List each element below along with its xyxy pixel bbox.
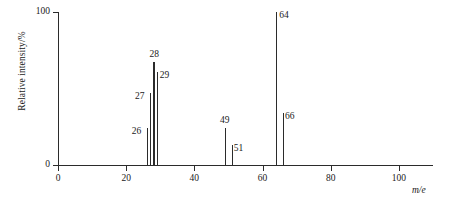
x-tick-label-100: 100: [392, 174, 406, 184]
peak-27: [150, 93, 151, 165]
x-tick-label-40: 40: [190, 174, 200, 184]
x-tick-20: [126, 166, 127, 171]
peak-label-51: 51: [234, 144, 244, 154]
peak-28: [153, 62, 154, 165]
x-tick-100: [399, 166, 400, 171]
x-tick-label-80: 80: [326, 174, 336, 184]
peak-label-29: 29: [160, 71, 170, 81]
peak-label-28: 28: [149, 50, 159, 60]
mass-spectrum-chart: Relative intensity/% m/e 0100 0204060801…: [0, 0, 458, 199]
x-tick-60: [263, 166, 264, 171]
y-axis-line: [58, 12, 59, 165]
peak-label-66: 66: [285, 112, 295, 122]
y-tick-label-100: 100: [14, 7, 50, 17]
peak-label-64: 64: [279, 11, 289, 21]
x-tick-40: [194, 166, 195, 171]
x-axis-line: [58, 165, 433, 166]
peak-label-27: 27: [135, 92, 145, 102]
x-tick-label-20: 20: [121, 174, 131, 184]
peak-label-49: 49: [220, 116, 230, 126]
y-tick-100: [53, 12, 58, 13]
x-axis-title: m/e: [412, 185, 426, 195]
peak-label-26: 26: [132, 127, 142, 137]
y-axis-title: Relative intensity/%: [17, 6, 27, 136]
x-tick-label-60: 60: [258, 174, 268, 184]
peak-49: [225, 128, 226, 165]
peak-64: [276, 12, 277, 165]
peak-26: [147, 128, 148, 165]
x-tick-0: [58, 166, 59, 171]
peak-51: [232, 145, 233, 165]
y-tick-label-0: 0: [14, 160, 50, 170]
peak-29: [157, 72, 158, 165]
peak-66: [283, 113, 284, 165]
x-tick-label-0: 0: [56, 174, 61, 184]
x-tick-80: [331, 166, 332, 171]
